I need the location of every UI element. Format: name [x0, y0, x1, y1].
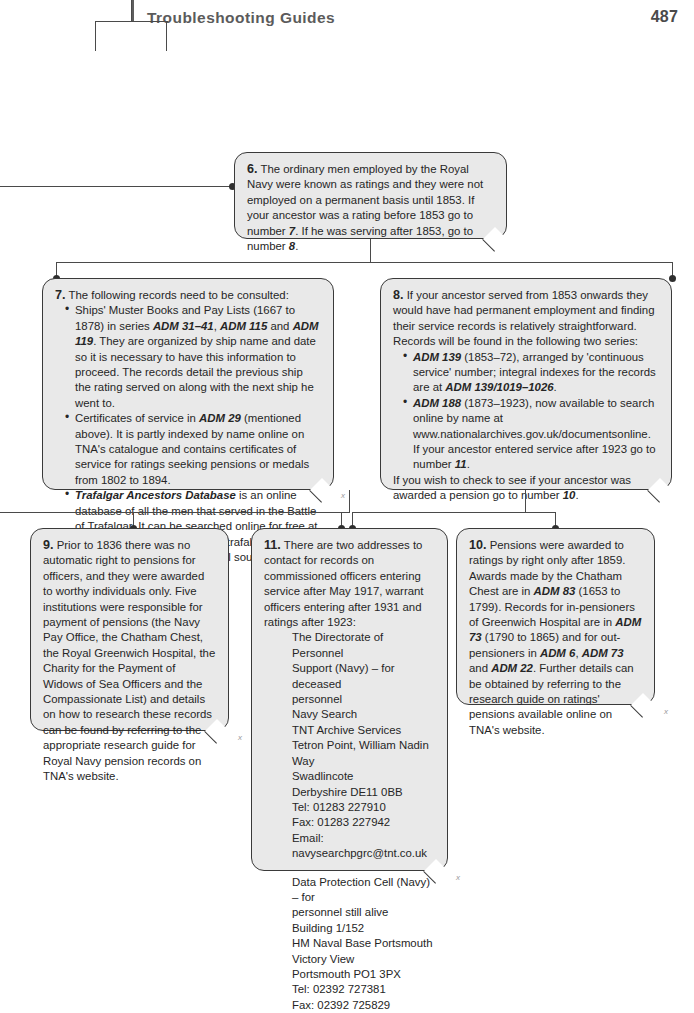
connector-bus-left: [0, 512, 350, 513]
connector-node6-down: [370, 239, 371, 263]
address-line: Support (Navy) – for deceased: [292, 661, 435, 692]
node-11-address-2: Data Protection Cell (Navy) – for person…: [264, 875, 435, 1013]
node-11-address-gap: [264, 862, 435, 875]
node-7-series-adm31-41: ADM 31–41: [153, 320, 214, 332]
page-title: Troubleshooting Guides: [147, 9, 335, 27]
address-line: Building 1/152: [292, 921, 435, 936]
address-line: Tel: 02392 727381: [292, 982, 435, 997]
connector-node6-split-bar: [56, 262, 673, 263]
node-7-trafalgar-db-title: Trafalgar Ancestors Database: [75, 489, 236, 501]
node-6[interactable]: 6. The ordinary men employed by the Roya…: [234, 152, 507, 239]
node-11-number: 11.: [264, 538, 281, 552]
connector-top-stem: [131, 0, 132, 22]
address-line: Email: navysearchpgrc@tnt.co.uk: [292, 831, 435, 862]
address-line: Victory View: [292, 952, 435, 967]
node-7-number: 7.: [55, 288, 66, 302]
address-line: Data Protection Cell (Navy) – for: [292, 875, 435, 906]
node-8-outro-text-a: If you wish to check to see if your ance…: [393, 474, 631, 501]
node-7-bullet-1: Ships' Muster Books and Pay Lists (1667 …: [67, 303, 321, 411]
node-10[interactable]: 10. Pensions were awarded to ratings by …: [456, 528, 655, 705]
node-6-text3: .: [295, 240, 298, 252]
node-11-x-mark: x: [456, 870, 460, 885]
node-11-address-1: The Directorate of Personnel Support (Na…: [264, 630, 435, 861]
connector-node8-down: [525, 490, 526, 512]
address-line: Fax: 02392 725829: [292, 998, 435, 1013]
node-8-ref-10: 10: [563, 489, 576, 501]
node-8[interactable]: 8. If your ancestor served from 1853 onw…: [380, 278, 672, 490]
node-10-number: 10.: [469, 538, 487, 552]
node-10-sep-2: and: [469, 662, 491, 674]
address-line: Tetron Point, William Nadin Way: [292, 738, 435, 769]
node-8-ref-11: 11: [455, 458, 467, 470]
node-10-series-adm73-b: ADM 73: [582, 647, 624, 659]
node-7-intro: The following records need to be consult…: [68, 289, 288, 301]
address-line: Navy Search: [292, 707, 435, 722]
node-7-bullet-2: Certificates of service in ADM 29 (menti…: [67, 411, 321, 488]
node-8-intro: If your ancestor served from 1853 onward…: [393, 289, 655, 347]
connector-top-bracket-left: [95, 21, 96, 51]
node-8-series-adm188: ADM 188: [413, 397, 461, 409]
address-line: personnel still alive: [292, 905, 435, 920]
node-7-b2-text-a: Certificates of service in: [75, 412, 199, 424]
node-10-series-adm22: ADM 22: [491, 662, 533, 674]
connector-top-bracket-right: [166, 21, 167, 51]
node-10-x-mark: x: [664, 704, 668, 719]
node-9-text: Prior to 1836 there was no automatic rig…: [43, 539, 215, 782]
address-line: Swadlincote: [292, 769, 435, 784]
node-8-bullet-2: ADM 188 (1873–1923), now available to se…: [405, 396, 659, 473]
address-line: personnel: [292, 692, 435, 707]
node-10-series-adm6: ADM 6: [540, 647, 575, 659]
page-number: 487: [651, 8, 678, 26]
node-8-series-adm139: ADM 139: [413, 351, 461, 363]
connector-bus-right: [352, 512, 556, 513]
node-8-bullet-1: ADM 139 (1853–72), arranged by 'continuo…: [405, 350, 659, 396]
connector-dot-node8: [669, 275, 676, 282]
address-line: Portsmouth PO1 3PX: [292, 967, 435, 982]
node-6-number: 6.: [247, 162, 258, 176]
node-7-b1-text-b: . They are organized by ship name and da…: [75, 335, 316, 409]
node-11-intro: There are two addresses to contact for r…: [264, 539, 424, 628]
node-7-series-adm29: ADM 29: [199, 412, 241, 424]
address-line: HM Naval Base Portsmouth: [292, 936, 435, 951]
node-7-x-mark: x: [341, 488, 345, 503]
node-8-outro-text-b: .: [575, 489, 578, 501]
node-10-series-adm83: ADM 83: [534, 585, 576, 597]
connector-top-bracket: [95, 21, 168, 22]
node-7-series-adm115: ADM 115: [220, 320, 267, 332]
address-line: The Directorate of Personnel: [292, 630, 435, 661]
node-9[interactable]: 9. Prior to 1836 there was no automatic …: [30, 528, 229, 731]
node-8-number: 8.: [393, 288, 404, 302]
address-line: Tel: 01283 227910: [292, 800, 435, 815]
address-line: Fax: 01283 227942: [292, 815, 435, 830]
address-line: TNT Archive Services: [292, 723, 435, 738]
node-8-bullet-list: ADM 139 (1853–72), arranged by 'continuo…: [393, 350, 659, 473]
node-8-b1-text-b: .: [554, 381, 557, 393]
node-11[interactable]: 11. There are two addresses to contact f…: [251, 528, 448, 871]
node-9-x-mark: x: [238, 730, 242, 745]
connector-into-node6: [0, 186, 233, 187]
node-7-b1-sep2: and: [267, 320, 292, 332]
node-9-number: 9.: [43, 538, 54, 552]
connector-node7-down: [349, 490, 350, 512]
address-line: Derbyshire DE11 0BB: [292, 785, 435, 800]
node-7[interactable]: 7. The following records need to be cons…: [42, 278, 334, 490]
node-8-b2-text-b: .: [467, 458, 470, 470]
node-8-series-adm139-index: ADM 139/1019–1026: [445, 381, 553, 393]
